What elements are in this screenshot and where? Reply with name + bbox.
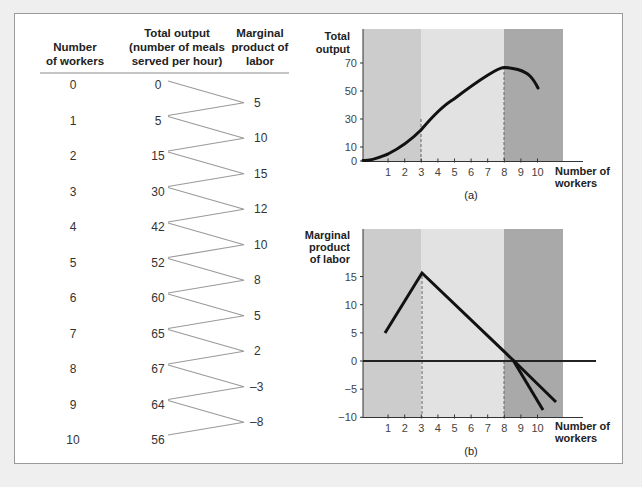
y-tick-label: 30 bbox=[345, 113, 357, 125]
zigzag-connector bbox=[168, 81, 244, 116]
zigzag-connector bbox=[168, 294, 244, 329]
region-negative-returns bbox=[504, 229, 563, 417]
x-tick-label: 6 bbox=[468, 422, 474, 434]
x-tick-label: 2 bbox=[402, 422, 408, 434]
y-tick-label: 5 bbox=[351, 327, 357, 339]
x-axis-label-line1: Number of bbox=[555, 165, 610, 177]
y-axis-label-line1: Marginal bbox=[305, 229, 350, 241]
zigzag-connectors bbox=[168, 81, 244, 435]
zigzag-connector bbox=[168, 401, 244, 436]
y-axis-label-line1: Total bbox=[325, 30, 350, 42]
zigzag-connector bbox=[168, 117, 244, 152]
x-tick-label: 1 bbox=[385, 422, 391, 434]
x-axis-label-line2: workers bbox=[554, 177, 597, 189]
x-tick-label: 10 bbox=[531, 166, 543, 178]
x-tick-label: 4 bbox=[435, 422, 441, 434]
y-axis-label-line3: of labor bbox=[310, 253, 351, 265]
x-tick-label: 2 bbox=[402, 166, 408, 178]
x-tick-label: 7 bbox=[485, 166, 491, 178]
x-tick-label: 5 bbox=[451, 166, 457, 178]
y-tick-label: 0 bbox=[351, 355, 357, 367]
y-axis-label-line2: output bbox=[316, 43, 351, 55]
y-tick-label: 10 bbox=[345, 299, 357, 311]
x-tick-label: 5 bbox=[451, 422, 457, 434]
zigzag-connector bbox=[168, 365, 244, 400]
region-increasing-returns bbox=[363, 29, 421, 161]
region-diminishing-returns bbox=[421, 29, 504, 161]
x-tick-label: 1 bbox=[385, 166, 391, 178]
charts-canvas: 010305070 12345678910 Total output Numbe… bbox=[0, 0, 642, 487]
y-ticks: 010305070 bbox=[345, 57, 363, 167]
y-tick-label: 70 bbox=[345, 57, 357, 69]
x-axis-label-line1: Number of bbox=[555, 420, 610, 432]
region-diminishing-returns bbox=[421, 229, 504, 417]
y-tick-label: −5 bbox=[344, 383, 357, 395]
y-tick-label: −10 bbox=[338, 411, 357, 423]
region-negative-returns bbox=[504, 29, 563, 161]
x-tick-label: 7 bbox=[485, 422, 491, 434]
y-axis-label-line2: product bbox=[309, 241, 350, 253]
zigzag-connector bbox=[168, 188, 244, 223]
panel-label-b: (b) bbox=[464, 445, 477, 457]
zigzag-connector bbox=[168, 223, 244, 258]
x-tick-label: 4 bbox=[435, 166, 441, 178]
chart-a: 010305070 12345678910 Total output Numbe… bbox=[316, 29, 611, 201]
x-tick-label: 8 bbox=[501, 422, 507, 434]
x-tick-label: 6 bbox=[468, 166, 474, 178]
y-ticks: −10−5051015 bbox=[338, 271, 363, 424]
x-tick-label: 3 bbox=[418, 422, 424, 434]
y-tick-label: 0 bbox=[351, 155, 357, 167]
zigzag-connector bbox=[168, 152, 244, 187]
zigzag-connector bbox=[168, 330, 244, 365]
y-tick-label: 15 bbox=[345, 271, 357, 283]
panel-label-a: (a) bbox=[464, 189, 477, 201]
chart-b: −10−5051015 12345678910 Marginal product… bbox=[305, 229, 611, 457]
x-tick-label: 9 bbox=[518, 166, 524, 178]
x-tick-label: 3 bbox=[418, 166, 424, 178]
x-tick-label: 9 bbox=[518, 422, 524, 434]
x-axis-label-line2: workers bbox=[554, 432, 597, 444]
zigzag-connector bbox=[168, 259, 244, 294]
x-tick-label: 8 bbox=[501, 166, 507, 178]
y-tick-label: 50 bbox=[345, 85, 357, 97]
x-tick-label: 10 bbox=[531, 422, 543, 434]
y-tick-label: 10 bbox=[345, 141, 357, 153]
